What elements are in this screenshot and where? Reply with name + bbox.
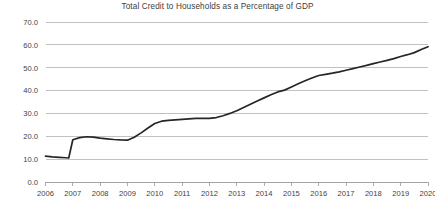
x-tick-label: 2020 <box>420 189 435 198</box>
chart-container: Total Credit to Households as a Percenta… <box>0 0 435 210</box>
x-tick-label: 2018 <box>365 189 382 198</box>
y-tick-label: 0.0 <box>27 178 38 187</box>
y-tick-label: 10.0 <box>23 155 38 164</box>
y-tick-label: 60.0 <box>23 41 38 50</box>
x-tick-label: 2015 <box>283 189 300 198</box>
y-tick-label: 40.0 <box>23 86 38 95</box>
y-tick-label: 20.0 <box>23 132 38 141</box>
line-chart-plot: 0.010.020.030.040.050.060.070.0 20062007… <box>0 0 435 210</box>
x-tick-label: 2013 <box>228 189 245 198</box>
x-tick-label: 2017 <box>338 189 355 198</box>
x-tick-label: 2011 <box>174 189 190 198</box>
y-axis-tick-labels: 0.010.020.030.040.050.060.070.0 <box>23 18 38 187</box>
series-line-0 <box>46 47 429 158</box>
x-tick-label: 2007 <box>64 189 81 198</box>
y-tick-label: 50.0 <box>23 64 38 73</box>
x-tick-label: 2008 <box>92 189 109 198</box>
x-tick-label: 2006 <box>37 189 54 198</box>
x-tick-label: 2009 <box>119 189 136 198</box>
y-tick-label: 30.0 <box>23 109 38 118</box>
x-tick-label: 2012 <box>201 189 218 198</box>
y-tick-label: 70.0 <box>23 18 38 27</box>
axis-ticks-group <box>46 182 429 186</box>
data-series-group <box>46 47 429 158</box>
x-tick-label: 2016 <box>310 189 327 198</box>
x-tick-label: 2010 <box>146 189 163 198</box>
gridlines-group <box>46 22 429 182</box>
x-tick-label: 2019 <box>392 189 409 198</box>
x-tick-label: 2014 <box>256 189 273 198</box>
x-axis-tick-labels: 2006200720082009201020112012201320142015… <box>37 189 435 198</box>
